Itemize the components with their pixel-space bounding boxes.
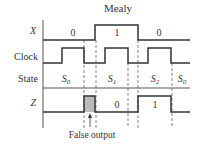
mealy-timing-diagram: Mealy X Clock State Z 0 1 0 S0 S1 S2 S0 …	[0, 0, 201, 149]
z-value-0: 0	[115, 99, 120, 110]
state-s0: S0	[62, 73, 71, 86]
x-value-2: 0	[157, 27, 162, 38]
z-label: Z	[30, 97, 36, 108]
clock-waveform	[43, 48, 190, 63]
diagram-title: Mealy	[104, 2, 133, 14]
arrow-up-icon	[88, 113, 92, 118]
state-s0-end: S0	[178, 73, 187, 86]
z-value-1: 1	[153, 99, 158, 110]
state-s2: S2	[151, 73, 160, 86]
x-value-1: 1	[115, 27, 120, 38]
state-s1: S1	[108, 73, 117, 86]
x-value-0: 0	[71, 27, 76, 38]
false-output-annotation: False output	[69, 130, 116, 140]
x-label: X	[29, 25, 37, 36]
false-output-pulse	[84, 96, 95, 112]
state-label: State	[18, 73, 39, 84]
clock-label: Clock	[14, 51, 38, 62]
